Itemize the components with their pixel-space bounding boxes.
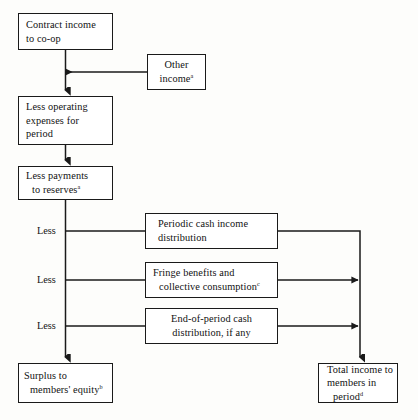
node-less-payments-reserves-line-2: to reservesa <box>26 183 112 197</box>
node-less-operating-expenses-line-2: expenses for <box>26 114 112 128</box>
node-other-income-line-1: Other <box>148 58 205 72</box>
node-total-income-members: Total income to members in periodd <box>318 363 398 403</box>
footnote-marker-b-surplus: b <box>99 383 102 390</box>
node-less-payments-reserves: Less payments to reservesa <box>18 166 113 200</box>
node-less-payments-reserves-line-1: Less payments <box>26 169 112 183</box>
node-contract-income: Contract income to co-op <box>18 13 113 50</box>
footnote-marker-a-other-income: a <box>191 72 194 79</box>
footnote-marker-a-reserves: a <box>77 183 80 190</box>
node-periodic-cash-line-2: distribution <box>158 231 277 245</box>
node-less-operating-expenses-line-1: Less operating <box>26 100 112 114</box>
node-less-operating-expenses-line-3: period <box>26 127 112 141</box>
flowchart-connectors <box>0 0 418 420</box>
branch-label-less-2: Less <box>37 274 56 285</box>
node-surplus-line-2: members' equityb <box>24 383 112 397</box>
node-total-income-line-3: periodd <box>327 390 397 404</box>
node-end-of-period-cash-line-2: distribution, if any <box>146 326 277 340</box>
node-other-income-line-2: incomea <box>148 72 205 86</box>
node-surplus-members-equity: Surplus to members' equityb <box>18 363 113 403</box>
node-periodic-cash-income-distribution: Periodic cash income distribution <box>145 213 278 249</box>
footnote-marker-c-fringe: c <box>257 280 260 287</box>
node-other-income: Other incomea <box>147 54 206 90</box>
flowchart-canvas: Contract income to co-op Other incomea L… <box>0 0 418 420</box>
node-end-of-period-cash-line-1: End-of-period cash <box>146 312 277 326</box>
connector-periodic-to-right-rail <box>278 231 360 357</box>
branch-label-less-1: Less <box>37 225 56 236</box>
node-periodic-cash-line-1: Periodic cash income <box>158 217 277 231</box>
node-less-operating-expenses: Less operating expenses for period <box>18 96 113 145</box>
node-contract-income-line-1: Contract income <box>26 18 112 32</box>
node-contract-income-line-2: to co-op <box>26 32 112 46</box>
node-surplus-line-1: Surplus to <box>24 369 112 383</box>
node-total-income-line-1: Total income to <box>327 363 397 377</box>
node-end-of-period-cash: End-of-period cash distribution, if any <box>145 308 278 344</box>
node-fringe-benefits-line-2: collective consumptionc <box>153 280 277 294</box>
node-fringe-benefits-line-1: Fringe benefits and <box>153 266 277 280</box>
node-total-income-line-2: members in <box>327 376 397 390</box>
node-fringe-benefits: Fringe benefits and collective consumpti… <box>145 262 278 298</box>
footnote-marker-d-total-income: d <box>360 389 363 396</box>
branch-label-less-3: Less <box>37 320 56 331</box>
